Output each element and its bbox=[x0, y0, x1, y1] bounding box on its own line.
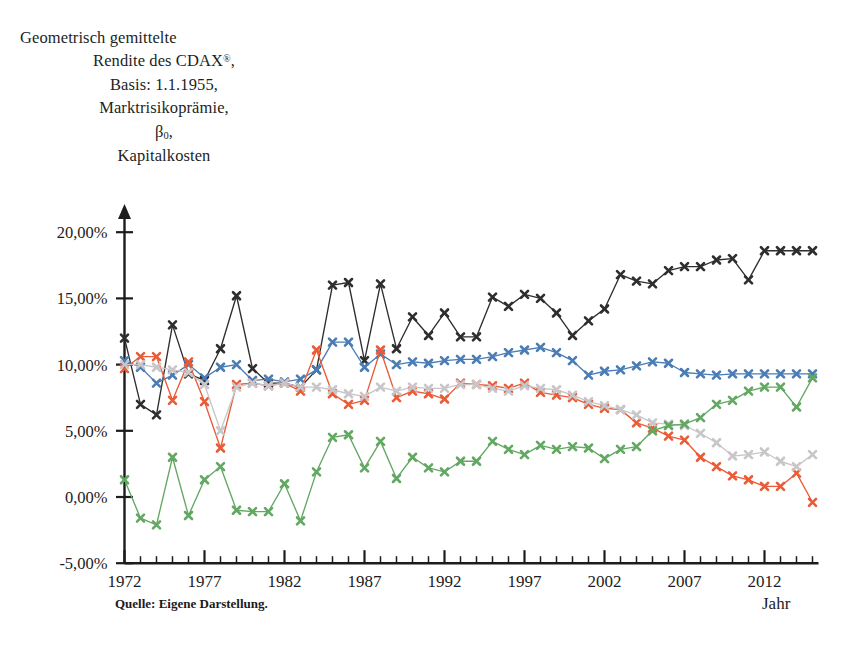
x-axis-tick-label: 1977 bbox=[188, 572, 223, 591]
data-point-marker bbox=[409, 313, 416, 320]
data-point-marker bbox=[201, 398, 208, 405]
x-axis-tick-label: 2007 bbox=[668, 572, 703, 591]
data-point-marker bbox=[361, 364, 368, 371]
data-series bbox=[121, 247, 816, 418]
y-axis-arrow-icon bbox=[118, 204, 131, 219]
data-point-marker bbox=[809, 499, 816, 506]
y-axis-tick-label: 10,00% bbox=[57, 356, 108, 375]
plot-area: 20,00%15,00%10,00%5,00%0,00%-5,00%197219… bbox=[0, 0, 848, 667]
data-point-marker bbox=[393, 475, 400, 482]
y-axis-tick-label: 20,00% bbox=[57, 223, 108, 242]
data-point-marker bbox=[489, 438, 496, 445]
data-point-marker bbox=[697, 414, 704, 421]
data-point-marker bbox=[777, 458, 784, 465]
y-axis-tick-label: 0,00% bbox=[65, 488, 108, 507]
x-axis-tick-label: 1982 bbox=[268, 572, 302, 591]
data-point-marker bbox=[505, 446, 512, 453]
x-axis-tick-label: 1997 bbox=[508, 572, 543, 591]
series-layer bbox=[121, 247, 816, 528]
data-point-marker bbox=[569, 357, 576, 364]
tick-labels-layer: 20,00%15,00%10,00%5,00%0,00%-5,00%197219… bbox=[57, 223, 782, 591]
y-axis-tick-label: 15,00% bbox=[57, 289, 108, 308]
data-point-marker bbox=[633, 411, 640, 418]
series-line bbox=[125, 342, 813, 383]
data-point-marker bbox=[505, 303, 512, 310]
chart-canvas: 20,00%15,00%10,00%5,00%0,00%-5,00%197219… bbox=[0, 0, 848, 667]
source-note: Quelle: Eigene Darstellung. bbox=[115, 596, 268, 612]
data-point-marker bbox=[217, 463, 224, 470]
data-point-marker bbox=[201, 476, 208, 483]
y-axis-tick-label: 5,00% bbox=[65, 422, 108, 441]
series-line bbox=[125, 365, 813, 467]
chart-figure: Geometrisch gemittelte Rendite des CDAX®… bbox=[0, 0, 848, 667]
data-point-marker bbox=[793, 463, 800, 470]
data-series bbox=[121, 361, 816, 470]
data-point-marker bbox=[601, 305, 608, 312]
data-point-marker bbox=[617, 271, 624, 278]
data-point-marker bbox=[553, 349, 560, 356]
data-point-marker bbox=[169, 397, 176, 404]
data-point-marker bbox=[697, 430, 704, 437]
data-point-marker bbox=[713, 463, 720, 470]
data-point-marker bbox=[217, 427, 224, 434]
data-point-marker bbox=[553, 309, 560, 316]
x-axis-tick-label: 2002 bbox=[588, 572, 622, 591]
x-axis-tick-label: 2012 bbox=[748, 572, 782, 591]
data-point-marker bbox=[745, 276, 752, 283]
data-point-marker bbox=[361, 464, 368, 471]
data-point-marker bbox=[585, 317, 592, 324]
data-point-marker bbox=[697, 454, 704, 461]
data-point-marker bbox=[633, 419, 640, 426]
x-axis-tick-label: 1972 bbox=[108, 572, 142, 591]
x-axis-tick-label: 1992 bbox=[428, 572, 462, 591]
data-point-marker bbox=[313, 347, 320, 354]
data-point-marker bbox=[425, 332, 432, 339]
series-line bbox=[125, 350, 813, 502]
series-line bbox=[125, 251, 813, 415]
data-point-marker bbox=[809, 451, 816, 458]
series-line bbox=[125, 378, 813, 525]
data-point-marker bbox=[137, 515, 144, 522]
data-point-marker bbox=[377, 438, 384, 445]
data-point-marker bbox=[521, 451, 528, 458]
data-point-marker bbox=[297, 517, 304, 524]
data-point-marker bbox=[793, 403, 800, 410]
x-axis-title: Jahr bbox=[762, 594, 790, 614]
data-point-marker bbox=[313, 468, 320, 475]
data-point-marker bbox=[713, 439, 720, 446]
x-axis-tick-label: 1987 bbox=[348, 572, 383, 591]
data-point-marker bbox=[217, 345, 224, 352]
data-point-marker bbox=[489, 294, 496, 301]
data-point-marker bbox=[569, 332, 576, 339]
data-point-marker bbox=[153, 380, 160, 387]
data-point-marker bbox=[281, 480, 288, 487]
data-point-marker bbox=[409, 454, 416, 461]
data-point-marker bbox=[601, 455, 608, 462]
data-point-marker bbox=[441, 309, 448, 316]
data-series bbox=[121, 339, 816, 387]
data-point-marker bbox=[441, 396, 448, 403]
y-axis-tick-label: -5,00% bbox=[59, 554, 107, 573]
